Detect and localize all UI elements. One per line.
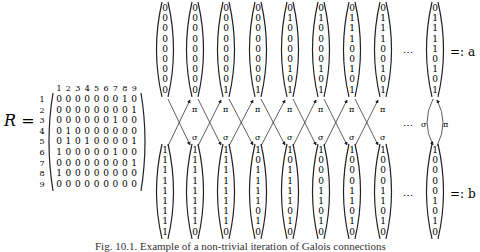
arrow-ellipsis: … [403,117,413,128]
matrix-cell: 0 [56,136,62,146]
column-index: 8 [122,84,127,93]
sigma-label: σ [223,133,229,142]
vector-entry: 1 [432,64,438,74]
vector-entry: 0 [318,3,324,13]
matrix-cell: 0 [131,94,137,104]
vector-entry: 1 [380,64,386,74]
matrix-cell: 0 [113,179,119,189]
vector-right-paren [168,2,174,97]
vector-entry: 0 [192,44,198,54]
vector-right-paren [293,144,299,239]
vector-entry: 1 [287,85,293,95]
pi-arrow [324,100,347,146]
vector-entry: 0 [255,34,261,44]
vector-entry: 1 [192,176,198,186]
vector-entry: 0 [255,74,261,84]
row-index: 9 [39,180,44,189]
column-index: 6 [103,84,108,93]
vector-right-paren [355,144,361,239]
vector-entry: 0 [192,34,198,44]
sigma-arrow [198,99,221,145]
bottom-vector: 100011010 [313,144,330,239]
vector-entry: 1 [287,176,293,186]
sigma-arrow [229,99,253,145]
matrix-cell: 0 [56,126,62,136]
top-ellipsis: … [403,44,413,55]
vector-entry: 0 [223,44,229,54]
matrix-cell: 0 [66,158,72,168]
matrix-cell: 0 [103,94,109,104]
matrix-cell: 0 [113,136,119,146]
matrix-cell: 0 [103,158,109,168]
vector-entry: 0 [255,64,261,74]
matrix-cell: 0 [66,105,72,115]
top-vector: 000000000 [187,2,204,97]
vector-entry: 1 [287,186,293,196]
matrix-cell: 0 [94,115,100,125]
matrix-cell: 0 [113,94,119,104]
pi-label: π [318,105,323,114]
vector-entry: 1 [318,186,324,196]
matrix-cell: 0 [84,115,90,125]
vector-entry: 0 [380,227,386,237]
vector-entry: 1 [162,165,168,175]
matrix-cell: 0 [131,179,137,189]
vector-entry: 1 [162,155,168,165]
vector-entry: 1 [349,64,355,74]
matrix-cell: 0 [113,168,119,178]
vector-entry: 0 [349,227,355,237]
vector-entry: 1 [380,145,386,155]
vector-entry: 1 [162,176,168,186]
vector-entry: 0 [162,23,168,33]
sigma-label: σ [318,133,324,142]
vector-entry: 0 [223,74,229,84]
top-limit-label: =: a [450,45,475,59]
matrix-cell: 0 [66,115,72,125]
vector-entry: 0 [162,85,168,95]
figure-caption: Fig. 10.1. Example of a non-trivial iter… [95,240,386,252]
vector-entry: 1 [318,13,324,23]
top-vector: 011100101 [375,2,392,97]
vector-entry: 1 [432,216,438,226]
matrix-cell: 0 [66,147,72,157]
vector-entry: 0 [223,23,229,33]
matrix-cell: 1 [56,147,62,157]
vector-entry: 1 [223,196,229,206]
vector-entry: 0 [255,206,261,216]
matrix-cell: 1 [66,126,72,136]
matrix-cell: 1 [66,136,72,146]
vector-entry: 1 [380,196,386,206]
row-index: 3 [39,116,44,125]
vector-entry: 0 [432,206,438,216]
matrix-cell: 0 [131,126,137,136]
vector-entry: 0 [349,54,355,64]
vector-entry: 1 [432,13,438,23]
vector-entry: 0 [162,54,168,64]
vector-entry: 0 [287,23,293,33]
row-index: 6 [39,148,44,157]
pi-arrow [198,100,221,146]
vector-entry: 0 [223,34,229,44]
bottom-vector: 111111110 [187,144,204,239]
vector-entry: 0 [162,13,168,23]
bottom-limit-vector: 100001010 [427,144,444,239]
matrix-cell: 0 [75,126,81,136]
vector-entry: 1 [318,64,324,74]
vector-entry: 0 [162,64,168,74]
vector-entry: 0 [223,64,229,74]
vector-entry: 0 [287,3,293,13]
sigma-label: σ [380,133,386,142]
top-vector: 000000001 [218,2,235,97]
vector-entry: 0 [192,54,198,64]
vector-right-paren [438,144,444,239]
pi-label: π [349,105,354,114]
vector-entry: 0 [349,176,355,186]
vector-entry: 1 [349,23,355,33]
vector-entry: 1 [223,165,229,175]
vector-entry: 1 [349,34,355,44]
row-index: 4 [39,127,44,136]
top-vector: 010000101 [313,2,330,97]
matrix-cell: 0 [94,147,100,157]
matrix-cell: 0 [131,115,137,125]
sigma-arrow [355,99,378,145]
